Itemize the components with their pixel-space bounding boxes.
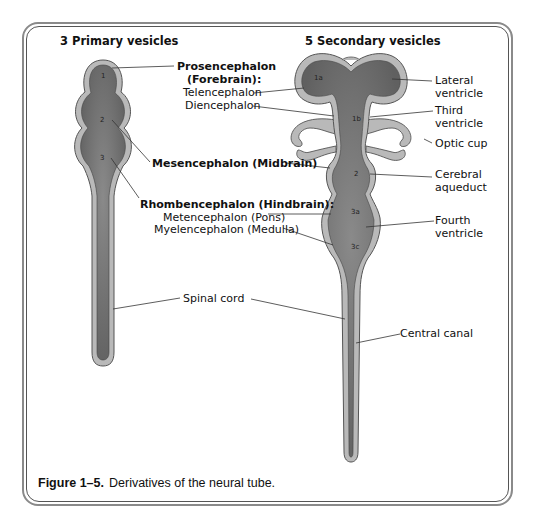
vesicle-number-2: 2 [100, 116, 104, 124]
label-rhombencephalon: Rhombencephalon (Hindbrain): [140, 198, 334, 211]
vesicle-number-3a: 3a [351, 208, 360, 216]
label-prosencephalon: Prosencephalon [177, 60, 276, 73]
label-cerebral-aqueduct-line2: aqueduct [435, 181, 487, 194]
vesicle-number-2-secondary: 2 [354, 170, 358, 178]
vesicle-number-3: 3 [100, 154, 104, 162]
label-fourth-ventricle-line2: ventricle [435, 227, 483, 240]
label-third-ventricle-line2: ventricle [435, 117, 483, 130]
label-spinal-cord: Spinal cord [183, 292, 244, 305]
label-cerebral-aqueduct-line1: Cerebral [435, 168, 482, 181]
label-forebrain: (Forebrain): [187, 73, 261, 86]
label-lateral-ventricle-line2: ventricle [435, 87, 483, 100]
label-diencephalon: Diencephalon [185, 99, 261, 112]
vesicle-number-1b: 1b [352, 115, 361, 123]
label-myelencephalon: Myelencephalon (Medulla) [154, 223, 299, 236]
label-third-ventricle-line1: Third [435, 104, 463, 117]
vesicle-number-3c: 3c [351, 243, 359, 251]
primary-vesicles-tube [75, 60, 132, 366]
secondary-vesicles-heading: 5 Secondary vesicles [305, 34, 441, 48]
label-telencephalon: Telencephalon [183, 86, 262, 99]
vesicle-number-1: 1 [101, 72, 105, 80]
label-lateral-ventricle-line1: Lateral [435, 74, 473, 87]
label-fourth-ventricle-line1: Fourth [435, 214, 470, 227]
vesicle-number-1a: 1a [314, 74, 323, 82]
label-mesencephalon: Mesencephalon (Midbrain) [152, 157, 317, 170]
label-optic-cup: Optic cup [435, 137, 488, 150]
figure-caption-text: Derivatives of the neural tube. [109, 476, 275, 490]
primary-vesicles-heading: 3 Primary vesicles [60, 34, 178, 48]
label-central-canal: Central canal [400, 327, 473, 340]
figure-caption: Figure 1–5.Derivatives of the neural tub… [38, 476, 275, 490]
figure-number: Figure 1–5. [38, 476, 104, 490]
